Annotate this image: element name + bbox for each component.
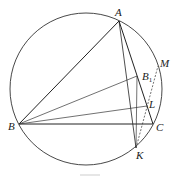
segment-bl <box>19 106 147 124</box>
label-k: K <box>135 149 144 161</box>
label-l: L <box>148 98 155 110</box>
segment-bb1 <box>19 76 137 124</box>
faint-caption <box>80 174 100 176</box>
segment-ak <box>119 21 136 148</box>
label-c: C <box>156 121 164 133</box>
geometry-figure: A B C B1 L M K <box>0 0 179 180</box>
label-b: B <box>8 120 15 132</box>
segment-b1k <box>136 76 137 148</box>
label-b1: B1 <box>142 70 153 84</box>
label-b1-subscript: 1 <box>149 76 153 84</box>
label-m: M <box>159 57 170 69</box>
label-a: A <box>114 6 122 18</box>
circumcircle <box>10 13 162 165</box>
segment-ab <box>19 21 119 124</box>
